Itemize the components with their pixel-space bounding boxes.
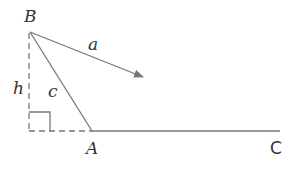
label-B: B	[23, 6, 37, 26]
label-h: h	[13, 78, 24, 98]
right-angle-marker	[29, 112, 50, 131]
vector-a-arrow	[30, 32, 143, 77]
label-C: C	[270, 138, 282, 158]
label-A: A	[84, 138, 98, 158]
side-c-line	[30, 32, 92, 131]
triangle-diagram: B a h c A C	[0, 0, 293, 169]
label-c: c	[48, 81, 58, 101]
label-a: a	[88, 34, 98, 54]
